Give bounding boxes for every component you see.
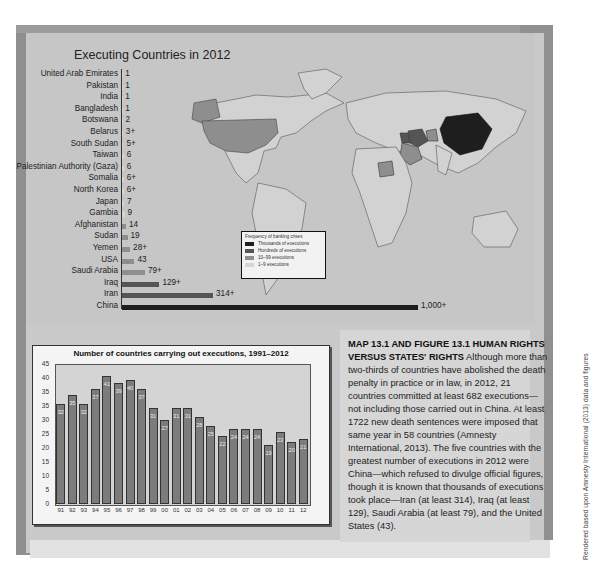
x-tick-label: 05 bbox=[216, 507, 228, 513]
vbar-value-label: 32 bbox=[55, 409, 67, 415]
vbar-value-label: 28 bbox=[193, 422, 205, 428]
legend-label: Hundreds of executions bbox=[258, 248, 306, 253]
hbar bbox=[122, 270, 145, 275]
vbar bbox=[137, 389, 146, 504]
vbar bbox=[79, 404, 88, 504]
map-title: Executing Countries in 2012 bbox=[74, 48, 230, 62]
hbar-value-label: 6 bbox=[127, 150, 132, 159]
vbar bbox=[149, 408, 158, 504]
y-tick-label: 30 bbox=[35, 416, 49, 423]
vbar bbox=[114, 383, 123, 504]
chart-plot-area: 0510152025303535404532913592329337944195… bbox=[51, 364, 315, 504]
vbar-value-label: 41 bbox=[101, 381, 113, 387]
vbar bbox=[241, 429, 250, 504]
hbar-category-label: China bbox=[0, 301, 118, 310]
caption-body: Although more than two-thirds of countri… bbox=[348, 352, 547, 531]
vbar-value-label: 24 bbox=[228, 434, 240, 440]
x-tick-label: 95 bbox=[101, 507, 113, 513]
hbar-value-label: 1 bbox=[125, 92, 130, 101]
legend-title: Frequency of banking crises bbox=[245, 234, 322, 239]
vbar-value-label: 31 bbox=[170, 413, 182, 419]
vbar-value-label: 31 bbox=[182, 413, 194, 419]
hbar-category-label: Iran bbox=[0, 289, 118, 298]
x-tick-label: 04 bbox=[205, 507, 217, 513]
y-tick-label: 0 bbox=[35, 500, 49, 507]
vbar bbox=[56, 404, 65, 504]
x-tick-label: 11 bbox=[286, 507, 298, 513]
hbar-value-label: 129+ bbox=[162, 278, 180, 287]
legend-label: 1–9 executions bbox=[258, 262, 289, 267]
y-tick-label: 5 bbox=[35, 486, 49, 493]
hbar bbox=[122, 143, 123, 148]
hbar-category-label: Gambia bbox=[0, 208, 118, 217]
vbar-value-label: 37 bbox=[89, 394, 101, 400]
vbar bbox=[206, 426, 215, 504]
hbar bbox=[122, 247, 130, 252]
hbar bbox=[122, 166, 124, 171]
hbar-category-label: Sudan bbox=[0, 231, 118, 240]
x-tick-label: 10 bbox=[274, 507, 286, 513]
hbar-value-label: 5+ bbox=[126, 139, 135, 148]
vbar bbox=[253, 429, 262, 504]
hbar-value-label: 1 bbox=[125, 81, 130, 90]
y-tick-label: 15 bbox=[35, 458, 49, 465]
vbar bbox=[68, 395, 77, 504]
hbar bbox=[122, 259, 134, 264]
vbar-value-label: 35 bbox=[66, 400, 78, 406]
x-tick-label: 98 bbox=[136, 507, 148, 513]
vbar-value-label: 23 bbox=[274, 437, 286, 443]
map-legend: Frequency of banking crises Thousands of… bbox=[241, 231, 326, 279]
x-tick-label: 96 bbox=[113, 507, 125, 513]
vbar-value-label: 20 bbox=[286, 447, 298, 453]
vbar-value-label: 37 bbox=[136, 394, 148, 400]
hbar-category-label: Saudi Arabia bbox=[0, 266, 118, 275]
vbar-value-label: 24 bbox=[251, 434, 263, 440]
x-tick-label: 01 bbox=[170, 507, 182, 513]
x-tick-label: 93 bbox=[78, 507, 90, 513]
hbar bbox=[122, 212, 125, 217]
y-tick-label: 25 bbox=[35, 430, 49, 437]
vbar bbox=[126, 380, 135, 504]
iraq-region bbox=[400, 133, 410, 143]
hbar bbox=[122, 305, 418, 310]
hbar-value-label: 14 bbox=[129, 220, 138, 229]
vbar-value-label: 40 bbox=[124, 385, 136, 391]
x-tick-label: 03 bbox=[193, 507, 205, 513]
y-tick-label: 35 bbox=[35, 388, 49, 395]
hbar-category-label: India bbox=[0, 92, 118, 101]
hbar-category-label: Pakistan bbox=[0, 81, 118, 90]
hbar bbox=[122, 201, 124, 206]
x-tick-label: 97 bbox=[124, 507, 136, 513]
x-tick-label: 94 bbox=[89, 507, 101, 513]
hbar bbox=[122, 282, 159, 287]
legend-item: 1–9 executions bbox=[245, 262, 322, 267]
hbar bbox=[122, 189, 124, 194]
vbar bbox=[172, 408, 181, 504]
hbar-value-label: 1 bbox=[125, 104, 130, 113]
hbar-value-label: 7 bbox=[127, 197, 132, 206]
hbar-category-label: Belarus bbox=[0, 127, 118, 136]
hbar-value-label: 6+ bbox=[127, 173, 136, 182]
afghanistan-region bbox=[426, 129, 438, 141]
vbar-value-label: 22 bbox=[216, 441, 228, 447]
hbar-category-label: Palestinian Authority (Gaza) bbox=[0, 162, 118, 171]
hbar-value-label: 6+ bbox=[127, 185, 136, 194]
y-tick-label: 10 bbox=[35, 472, 49, 479]
chart-title: Number of countries carrying out executi… bbox=[33, 349, 329, 358]
hbar-category-label: Botswana bbox=[0, 115, 118, 124]
hbar-value-label: 3+ bbox=[126, 127, 135, 136]
legend-item: 10–99 executions bbox=[245, 255, 322, 260]
x-tick-label: 08 bbox=[251, 507, 263, 513]
vbar bbox=[195, 417, 204, 504]
x-tick-label: 91 bbox=[55, 507, 67, 513]
x-tick-label: 92 bbox=[66, 507, 78, 513]
vbar-value-label: 39 bbox=[113, 388, 125, 394]
x-tick-label: 12 bbox=[297, 507, 309, 513]
hbar bbox=[122, 119, 123, 124]
hbar-category-label: Iraq bbox=[0, 278, 118, 287]
hbar-category-label: Yemen bbox=[0, 243, 118, 252]
hbar-value-label: 6 bbox=[127, 162, 132, 171]
hbar-category-label: United Arab Emirates bbox=[0, 69, 118, 78]
hbar-value-label: 79+ bbox=[148, 266, 162, 275]
vbar-value-label: 25 bbox=[205, 431, 217, 437]
